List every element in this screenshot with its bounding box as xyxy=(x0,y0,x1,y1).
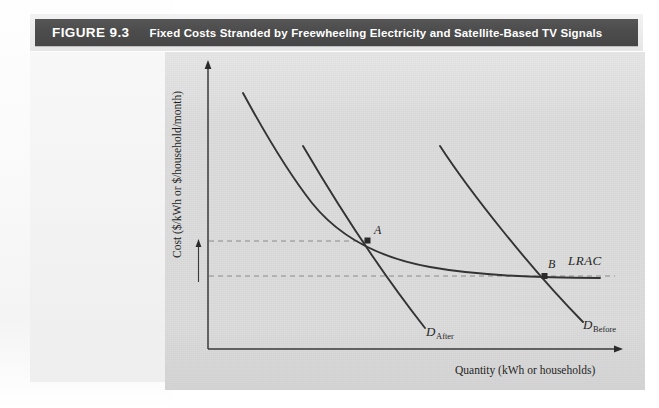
figure-panel-background xyxy=(165,52,645,390)
figure-number: FIGURE 9.3 xyxy=(52,25,130,40)
figure-header-bar: FIGURE 9.3 Fixed Costs Stranded by Freew… xyxy=(35,19,638,46)
page-margin-shading xyxy=(30,52,170,382)
figure-title: Fixed Costs Stranded by Freewheeling Ele… xyxy=(150,27,603,39)
page-left-margin xyxy=(0,0,172,408)
figure-page: FIGURE 9.3 Fixed Costs Stranded by Freew… xyxy=(0,0,659,408)
